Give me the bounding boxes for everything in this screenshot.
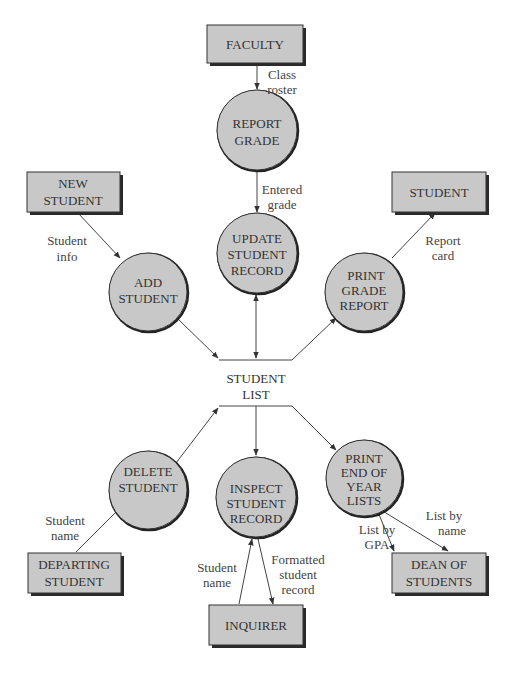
process-report-grade: REPORT GRADE xyxy=(217,90,298,171)
process-label: LISTS xyxy=(347,493,382,508)
svg-text:RECORD: RECORD xyxy=(231,263,284,278)
flow-label-list-by-name: List by name xyxy=(426,508,467,538)
process-label: YEAR xyxy=(346,479,382,494)
process-label: UPDATE xyxy=(232,231,282,246)
process-label: GRADE xyxy=(342,283,387,298)
process-label: PRINT xyxy=(347,268,385,283)
entity-label: STUDENT xyxy=(44,574,103,589)
svg-text:STUDENT: STUDENT xyxy=(118,480,177,495)
svg-text:ADD: ADD xyxy=(134,275,162,290)
svg-text:STUDENT: STUDENT xyxy=(409,185,468,200)
flow-inquirer-name-arrow xyxy=(239,539,252,604)
svg-text:info: info xyxy=(57,249,78,264)
entity-label: DEPARTING xyxy=(38,557,110,572)
flow-formatted-record-arrow xyxy=(258,539,273,604)
svg-text:Formatted: Formatted xyxy=(271,552,325,567)
process-inspect-student-record: INSPECT STUDENT RECORD xyxy=(216,457,297,538)
svg-text:STUDENT: STUDENT xyxy=(44,574,103,589)
svg-text:GRADE: GRADE xyxy=(235,133,280,148)
svg-text:Entered: Entered xyxy=(262,182,303,197)
svg-text:Class: Class xyxy=(268,67,296,82)
svg-text:INSPECT: INSPECT xyxy=(230,481,283,496)
svg-text:STUDENTS: STUDENTS xyxy=(406,574,472,589)
svg-text:DEPARTING: DEPARTING xyxy=(38,557,110,572)
svg-text:REPORT: REPORT xyxy=(232,116,281,131)
process-add-student: ADD STUDENT xyxy=(109,253,188,332)
svg-text:GPA: GPA xyxy=(365,537,390,552)
svg-text:DELETE: DELETE xyxy=(123,464,172,479)
svg-text:LISTS: LISTS xyxy=(347,493,382,508)
flow-store-to-print-report-arrow xyxy=(292,318,336,360)
svg-text:END OF: END OF xyxy=(341,465,388,480)
process-delete-student: DELETE STUDENT xyxy=(109,451,188,530)
data-flow-diagram: FACULTY NEW STUDENT STUDENT DEPARTING ST… xyxy=(0,0,514,678)
svg-text:card: card xyxy=(432,248,455,263)
data-store-label: LIST xyxy=(242,387,270,402)
svg-text:UPDATE: UPDATE xyxy=(232,231,282,246)
svg-text:List by: List by xyxy=(426,508,463,523)
svg-text:name: name xyxy=(438,523,466,538)
entity-inquirer: INQUIRER xyxy=(209,605,306,648)
process-label: PRINT xyxy=(345,451,383,466)
process-label: REPORT xyxy=(339,298,388,313)
svg-text:FACULTY: FACULTY xyxy=(226,37,284,52)
flow-label-class-roster: Class roster xyxy=(267,67,297,97)
svg-text:Student: Student xyxy=(197,560,237,575)
svg-text:name: name xyxy=(51,528,79,543)
svg-text:STUDENT: STUDENT xyxy=(118,291,177,306)
svg-text:STUDENT: STUDENT xyxy=(226,371,285,386)
flow-label-student-name-inquirer: Student name xyxy=(197,560,237,590)
flow-store-to-end-of-year-arrow xyxy=(292,406,336,450)
svg-text:NEW: NEW xyxy=(58,176,88,191)
flow-label-student-info: Student info xyxy=(47,233,87,264)
flow-add-to-store-arrow xyxy=(177,318,218,358)
process-label: STUDENT xyxy=(118,291,177,306)
entity-label: INQUIRER xyxy=(225,618,287,633)
process-label: DELETE xyxy=(123,464,172,479)
svg-text:GRADE: GRADE xyxy=(342,283,387,298)
svg-text:Report: Report xyxy=(425,233,461,248)
entity-student: STUDENT xyxy=(392,172,489,215)
entity-label: FACULTY xyxy=(226,37,284,52)
svg-text:Student: Student xyxy=(47,233,87,248)
process-label: ADD xyxy=(134,275,162,290)
svg-text:Student: Student xyxy=(45,513,85,528)
svg-text:REPORT: REPORT xyxy=(339,298,388,313)
data-store-label: STUDENT xyxy=(226,371,285,386)
flow-label-student-name-departing: Student name xyxy=(45,513,85,543)
process-print-grade-report: PRINT GRADE REPORT xyxy=(325,253,404,332)
svg-text:roster: roster xyxy=(267,82,297,97)
entity-new-student: NEW STUDENT xyxy=(27,172,123,215)
process-label: STUDENT xyxy=(118,480,177,495)
flow-label-formatted-student-record: Formatted student record xyxy=(271,552,325,597)
flow-label-list-by-gpa: List by GPA xyxy=(359,522,396,552)
svg-text:List by: List by xyxy=(359,522,396,537)
svg-text:YEAR: YEAR xyxy=(346,479,382,494)
process-update-student-record: UPDATE STUDENT RECORD xyxy=(217,213,298,294)
entity-label: STUDENT xyxy=(43,193,102,208)
entity-label: STUDENT xyxy=(409,185,468,200)
process-label: INSPECT xyxy=(230,481,283,496)
process-label: RECORD xyxy=(230,511,283,526)
process-label: RECORD xyxy=(231,263,284,278)
process-label: STUDENT xyxy=(227,247,286,262)
svg-text:STUDENT: STUDENT xyxy=(227,247,286,262)
svg-text:PRINT: PRINT xyxy=(345,451,383,466)
svg-text:RECORD: RECORD xyxy=(230,511,283,526)
entity-label: STUDENTS xyxy=(406,574,472,589)
data-store-student-list: STUDENT LIST xyxy=(226,371,285,402)
svg-text:INQUIRER: INQUIRER xyxy=(225,618,287,633)
process-label: GRADE xyxy=(235,133,280,148)
svg-text:STUDENT: STUDENT xyxy=(43,193,102,208)
process-label: END OF xyxy=(341,465,388,480)
svg-text:PRINT: PRINT xyxy=(347,268,385,283)
svg-text:grade: grade xyxy=(268,197,297,212)
flow-delete-to-store-arrow xyxy=(176,408,218,463)
entity-faculty: FACULTY xyxy=(207,25,306,66)
process-label: REPORT xyxy=(232,116,281,131)
entity-label: NEW xyxy=(58,176,88,191)
svg-text:DEAN OF: DEAN OF xyxy=(411,557,467,572)
svg-text:name: name xyxy=(203,575,231,590)
flow-label-entered-grade: Entered grade xyxy=(262,182,303,212)
svg-text:student: student xyxy=(279,567,317,582)
